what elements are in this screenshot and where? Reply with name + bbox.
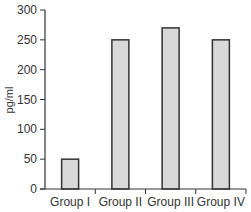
- y-axis-label: pg/ml: [3, 87, 15, 114]
- y-tick-label: 300: [17, 3, 37, 17]
- y-tick-label: 0: [30, 182, 37, 196]
- x-axis-ticks: Group IGroup IIGroup IIIGroup IV: [50, 189, 246, 209]
- x-tick-label: Group III: [147, 195, 194, 209]
- bar-group-iv: [212, 40, 229, 189]
- bar-group-i: [62, 159, 79, 189]
- bar-group-ii: [112, 40, 129, 189]
- bar-group-iii: [162, 28, 179, 189]
- x-tick-label: Group II: [99, 195, 142, 209]
- y-tick-label: 250: [17, 33, 37, 47]
- y-tick-label: 150: [17, 93, 37, 107]
- bars: [62, 28, 230, 189]
- x-tick-label: Group I: [50, 195, 90, 209]
- y-axis-ticks: 050100150200250300: [17, 3, 45, 196]
- y-tick-label: 200: [17, 63, 37, 77]
- y-tick-label: 100: [17, 122, 37, 136]
- bar-chart: 050100150200250300 Group IGroup IIGroup …: [0, 0, 251, 212]
- x-tick-label: Group IV: [197, 195, 245, 209]
- y-tick-label: 50: [24, 152, 38, 166]
